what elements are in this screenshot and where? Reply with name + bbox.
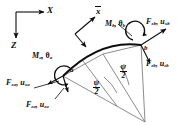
node-label-a: a xyxy=(70,67,74,74)
axis-label-x: X xyxy=(47,6,53,15)
comma-xa: , xyxy=(16,78,18,87)
x-bar-glyph: x xyxy=(96,7,101,16)
axis-label-x-local: x xyxy=(96,7,101,16)
disp-xb-sub: xb xyxy=(165,21,170,26)
label-force-zb: Fzb, uzb xyxy=(146,60,169,69)
node-label-b: b xyxy=(144,45,148,52)
local-axis-pointer xyxy=(75,34,86,47)
curved-beam-member xyxy=(63,44,141,76)
disp-xa-sub: xa xyxy=(25,82,30,87)
node-a-group xyxy=(34,66,70,99)
moment-b-arc xyxy=(126,21,145,40)
comma-a: , xyxy=(42,51,44,60)
comma-b: , xyxy=(115,19,117,28)
angle-arc-left xyxy=(104,77,117,93)
sector-lines xyxy=(63,45,145,122)
axis-label-z: Z xyxy=(11,41,17,50)
label-force-xa: Fxa, uxa xyxy=(6,79,30,88)
comma-xb: , xyxy=(156,17,158,26)
global-axes xyxy=(16,12,44,38)
half-angle-left-den: 2 xyxy=(93,88,100,96)
node-b-group xyxy=(126,21,166,63)
beam-arc xyxy=(63,44,141,76)
moment-b-arrowhead xyxy=(143,32,147,36)
chord-lower xyxy=(63,54,103,76)
half-angle-left: ψ 2 xyxy=(93,79,100,96)
label-moment-b: Mb, θb xyxy=(105,20,125,29)
moment-a-arc xyxy=(55,66,70,85)
label-moment-a: Ma, θa xyxy=(32,52,52,61)
theta-b-sub: b xyxy=(123,23,125,28)
curved-beam-force-diagram: X Z x Mb, θb Ma, θa Fxb, uxb Fzb, uzb Fx… xyxy=(0,0,193,126)
disp-zb-sub: zb xyxy=(164,63,168,68)
comma-za: , xyxy=(36,100,38,109)
local-axis-group xyxy=(75,17,95,47)
half-angle-right-num: ψ xyxy=(121,62,126,71)
radius-line-a xyxy=(63,76,145,122)
disp-za-sub: za xyxy=(44,104,48,109)
theta-a-sub: a xyxy=(50,55,52,60)
half-angle-right-den: 2 xyxy=(120,72,127,80)
half-angle-right: ψ 2 xyxy=(120,63,127,80)
force-xa-leader xyxy=(34,81,59,88)
force-xa-arrow xyxy=(48,76,63,84)
radius-line-b xyxy=(141,45,145,122)
label-force-xb: Fxb, uxb xyxy=(146,18,170,27)
comma-zb: , xyxy=(156,59,158,68)
half-angle-left-num: ψ xyxy=(94,78,99,87)
local-x-axis-arrow xyxy=(75,17,95,34)
force-za-leader xyxy=(55,88,64,99)
label-force-za: Fza, uza xyxy=(26,101,49,110)
